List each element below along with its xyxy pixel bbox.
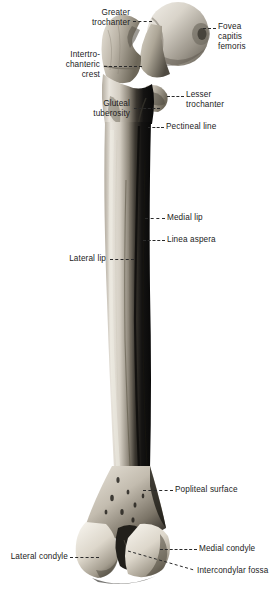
label-lateral-lip: Lateral lip	[42, 254, 106, 264]
label-lateral-condyle: Lateral condyle	[2, 552, 68, 562]
leader-intertrochanteric-crest	[104, 66, 142, 67]
annotation-layer: Greater trochanter Fovea capitis femoris…	[0, 0, 278, 599]
leader-gluteal-tuberosity	[134, 108, 160, 109]
label-fovea-capitis-femoris: Fovea capitis femoris	[218, 22, 274, 53]
leader-linea-aspera	[143, 240, 165, 241]
leader-fovea-capitis-femoris	[203, 28, 216, 29]
label-linea-aspera: Linea aspera	[167, 235, 243, 245]
label-greater-trochanter: Greater trochanter	[58, 8, 130, 28]
leader-lateral-lip	[110, 259, 134, 260]
leader-medial-lip	[145, 218, 165, 219]
leader-lesser-trochanter	[167, 96, 184, 97]
label-pectineal-line: Pectineal line	[166, 122, 246, 132]
label-intercondylar-fossa: Intercondylar fossa	[197, 566, 278, 576]
label-medial-condyle: Medial condyle	[199, 544, 277, 554]
label-popliteal-surface: Popliteal surface	[175, 485, 271, 495]
label-gluteal-tuberosity: Gluteal tuberosity	[52, 99, 130, 119]
leader-pectineal-line	[148, 127, 164, 128]
leader-greater-trochanter	[133, 21, 152, 22]
leader-intercondylar-fossa	[128, 548, 196, 574]
leader-lateral-condyle	[70, 557, 99, 558]
label-intertrochanteric-crest: Intertro- chanteric crest	[30, 50, 100, 81]
label-medial-lip: Medial lip	[167, 213, 235, 223]
label-lesser-trochanter: Lesser trochanter	[186, 90, 254, 110]
leader-popliteal-surface	[143, 490, 173, 491]
femur-anatomy-figure: Greater trochanter Fovea capitis femoris…	[0, 0, 278, 599]
